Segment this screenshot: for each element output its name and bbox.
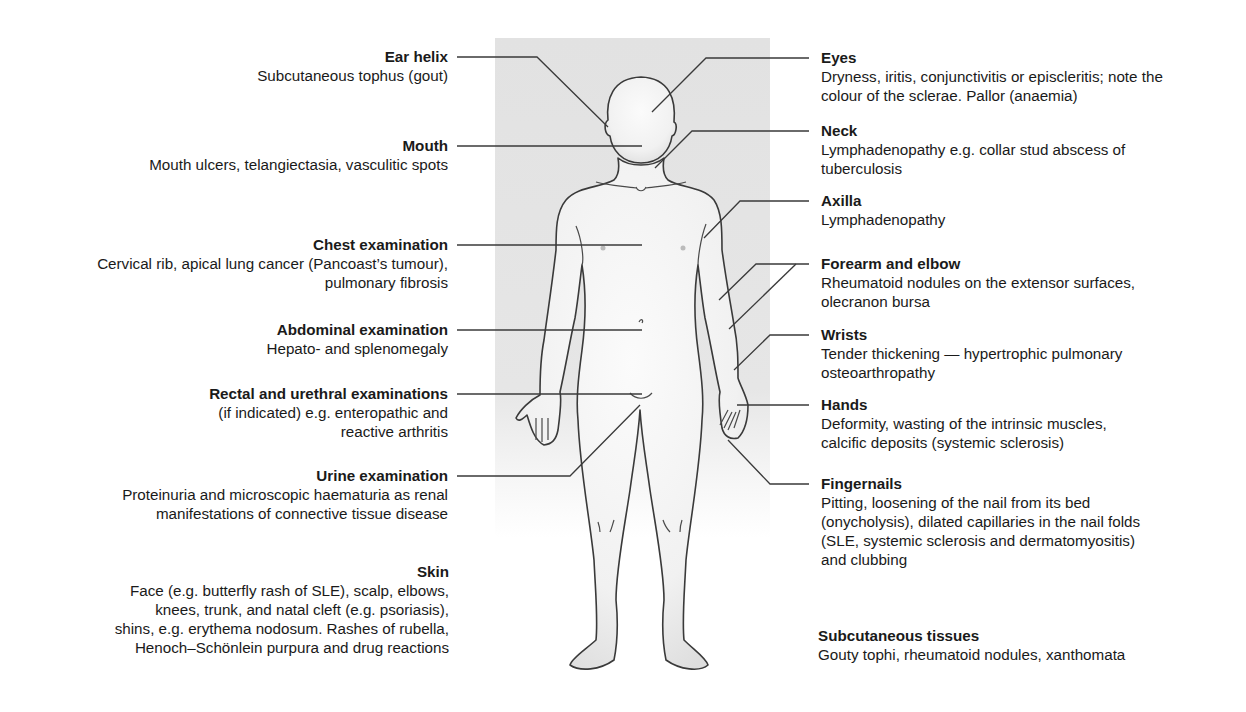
label-title: Skin [115,562,449,581]
label-subcutaneous-tissues: Subcutaneous tissues Gouty tophi, rheuma… [818,626,1125,664]
label-eyes: Eyes Dryness, iritis, conjunctivitis or … [821,48,1163,105]
label-axilla: Axilla Lymphadenopathy [821,191,945,229]
label-desc: Tender thickening — hypertrophic pulmona… [821,344,1122,382]
label-desc: Cervical rib, apical lung cancer (Pancoa… [97,254,448,292]
label-desc: Proteinuria and microscopic haematuria a… [122,485,448,523]
label-rectal-urethral: Rectal and urethral examinations (if ind… [209,384,448,441]
head [605,77,676,163]
label-desc: Face (e.g. butterfly rash of SLE), scalp… [115,581,449,657]
label-title: Hands [821,395,1107,414]
label-fingernails: Fingernails Pitting, loosening of the na… [821,474,1140,569]
label-skin: Skin Face (e.g. butterfly rash of SLE), … [115,562,449,657]
label-title: Abdominal examination [266,320,448,339]
label-desc: Lymphadenopathy [821,210,945,229]
examination-diagram: Ear helix Subcutaneous tophus (gout) Mou… [0,0,1246,712]
leader-forearm-2 [729,264,796,329]
label-title: Axilla [821,191,945,210]
leader-fingernails [728,440,809,484]
label-wrists: Wrists Tender thickening — hypertrophic … [821,325,1122,382]
label-abdominal-examination: Abdominal examination Hepato- and spleno… [266,320,448,358]
label-title: Urine examination [122,466,448,485]
label-desc: (if indicated) e.g. enteropathic and rea… [209,403,448,441]
label-desc: Subcutaneous tophus (gout) [257,66,448,85]
label-title: Ear helix [257,47,448,66]
label-title: Subcutaneous tissues [818,626,1125,645]
label-title: Eyes [821,48,1163,67]
label-mouth: Mouth Mouth ulcers, telangiectasia, vasc… [149,136,448,174]
label-title: Chest examination [97,235,448,254]
label-urine-examination: Urine examination Proteinuria and micros… [122,466,448,523]
label-title: Fingernails [821,474,1140,493]
label-title: Mouth [149,136,448,155]
label-desc: Pitting, loosening of the nail from its … [821,493,1140,569]
leader-eyes [652,58,809,112]
label-title: Neck [821,121,1125,140]
label-title: Wrists [821,325,1122,344]
label-hands: Hands Deformity, wasting of the intrinsi… [821,395,1107,452]
label-desc: Gouty tophi, rheumatoid nodules, xanthom… [818,645,1125,664]
label-title: Rectal and urethral examinations [209,384,448,403]
label-title: Forearm and elbow [821,254,1135,273]
leader-ear-helix [457,57,608,127]
leader-neck [655,131,809,168]
label-ear-helix: Ear helix Subcutaneous tophus (gout) [257,47,448,85]
label-desc: Lymphadenopathy e.g. collar stud abscess… [821,140,1125,178]
label-neck: Neck Lymphadenopathy e.g. collar stud ab… [821,121,1125,178]
label-desc: Deformity, wasting of the intrinsic musc… [821,414,1107,452]
leader-wrists [734,335,809,370]
label-desc: Dryness, iritis, conjunctivitis or episc… [821,67,1163,105]
label-desc: Hepato- and splenomegaly [266,339,448,358]
label-chest-examination: Chest examination Cervical rib, apical l… [97,235,448,292]
label-desc: Mouth ulcers, telangiectasia, vasculitic… [149,155,448,174]
label-forearm-elbow: Forearm and elbow Rheumatoid nodules on … [821,254,1135,311]
label-desc: Rheumatoid nodules on the extensor surfa… [821,273,1135,311]
